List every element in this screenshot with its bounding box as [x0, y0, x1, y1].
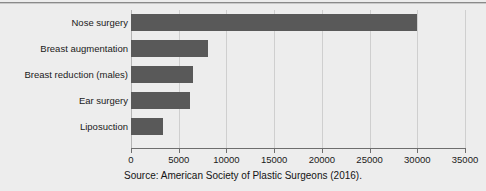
bar — [131, 14, 417, 31]
tick-mark — [322, 149, 323, 153]
x-tick-label: 0 — [109, 154, 153, 165]
gridline — [417, 10, 418, 148]
bar-chart-figure: Nose surgeryBreast augmentationBreast re… — [0, 0, 486, 191]
category-axis-labels: Nose surgeryBreast augmentationBreast re… — [0, 10, 128, 148]
x-tick-label: 35000 — [443, 154, 486, 165]
bar — [131, 40, 208, 57]
category-label: Liposuction — [2, 118, 128, 135]
x-axis-line — [131, 148, 466, 149]
bar — [131, 66, 193, 83]
tick-mark — [274, 149, 275, 153]
tick-mark — [179, 149, 180, 153]
x-tick-label: 5000 — [157, 154, 201, 165]
x-tick-label: 20000 — [300, 154, 344, 165]
plot-area — [131, 10, 465, 148]
category-label: Breast reduction (males) — [2, 66, 128, 83]
tick-mark — [465, 149, 466, 153]
x-tick-label: 15000 — [252, 154, 296, 165]
category-label: Nose surgery — [2, 14, 128, 31]
x-tick-label: 25000 — [348, 154, 392, 165]
gridline — [465, 10, 466, 148]
source-caption: Source: American Society of Plastic Surg… — [0, 170, 486, 181]
bar — [131, 92, 190, 109]
category-label: Breast augmentation — [2, 40, 128, 57]
top-divider-shadow — [0, 3, 486, 4]
category-label: Ear surgery — [2, 92, 128, 109]
x-tick-label: 10000 — [204, 154, 248, 165]
tick-mark — [417, 149, 418, 153]
tick-mark — [131, 149, 132, 153]
tick-mark — [370, 149, 371, 153]
bar — [131, 118, 163, 135]
tick-mark — [226, 149, 227, 153]
x-tick-label: 30000 — [395, 154, 439, 165]
